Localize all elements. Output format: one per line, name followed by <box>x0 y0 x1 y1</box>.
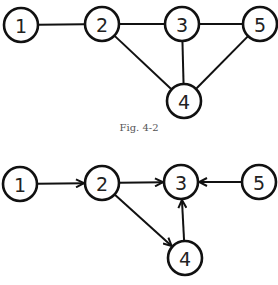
edge-1-2 <box>37 183 84 184</box>
node-label: 2 <box>96 14 108 36</box>
node-label: 3 <box>175 172 187 194</box>
node-label: 2 <box>96 173 108 195</box>
node-2: 2 <box>85 7 119 41</box>
edge-2-3 <box>119 182 163 183</box>
edge-5-4 <box>197 36 248 88</box>
node-3: 3 <box>165 7 199 41</box>
figure-caption: Fig. 4-2 <box>0 122 278 133</box>
edge-2-4 <box>114 36 170 89</box>
node-2: 2 <box>85 166 119 200</box>
node-label: 5 <box>254 14 266 36</box>
node-label: 1 <box>14 174 26 196</box>
node-3: 3 <box>164 165 198 199</box>
graph-canvas: 12354 12354 <box>0 0 278 285</box>
edge-3-4 <box>182 41 183 83</box>
edge-1-2 <box>38 24 84 25</box>
node-label: 4 <box>178 91 190 113</box>
node-label: 5 <box>253 172 265 194</box>
node-label: 4 <box>179 248 191 270</box>
undirected-graph: 12354 <box>4 7 277 118</box>
node-5: 5 <box>243 7 277 41</box>
node-label: 1 <box>15 15 27 37</box>
node-label: 3 <box>176 14 188 36</box>
node-1: 1 <box>3 167 37 201</box>
node-4: 4 <box>168 241 202 275</box>
directed-graph: 12354 <box>3 165 276 275</box>
node-5: 5 <box>242 165 276 199</box>
node-1: 1 <box>4 8 38 42</box>
node-4: 4 <box>167 84 201 118</box>
edge-4-3 <box>182 200 184 241</box>
edge-2-4 <box>115 194 172 246</box>
